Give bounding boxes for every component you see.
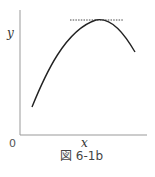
curve	[32, 20, 135, 107]
origin-label: 0	[9, 138, 16, 149]
figure-caption: 図 6-1b	[60, 150, 103, 162]
x-axis-label: x	[81, 137, 88, 149]
y-axis-label: y	[7, 27, 14, 39]
